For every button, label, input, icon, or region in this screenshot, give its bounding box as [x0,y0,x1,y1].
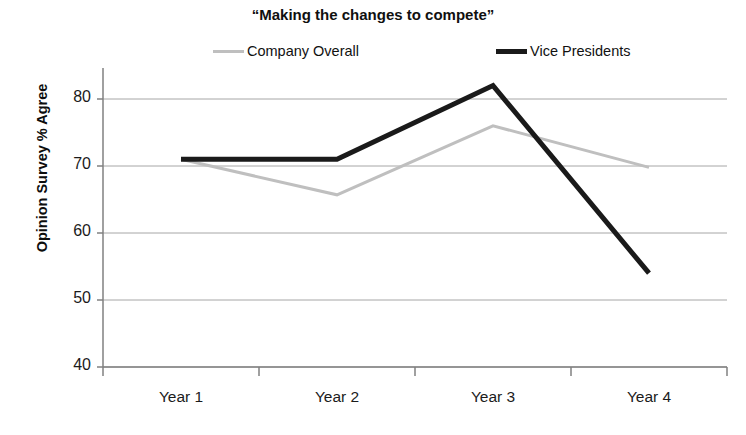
axis-lines [97,68,727,376]
data-line-series-1 [181,86,649,274]
y-tick-label: 40 [45,356,91,374]
y-tick-label: 70 [45,155,91,173]
x-tick-label: Year 4 [589,388,709,406]
x-tick-label: Year 3 [433,388,553,406]
data-series-lines [181,86,649,274]
y-tick-label: 60 [45,222,91,240]
y-tick-label: 50 [45,289,91,307]
y-tick-label: 80 [45,88,91,106]
chart-container: “Making the changes to compete” Company … [0,0,746,435]
gridlines [103,99,727,367]
x-tick-label: Year 1 [121,388,241,406]
x-tick-label: Year 2 [277,388,397,406]
plot-area [0,0,746,435]
